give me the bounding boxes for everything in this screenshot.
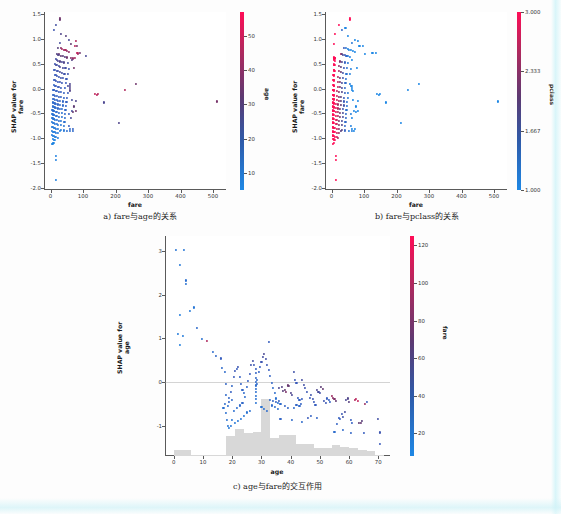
- scatter-point: [342, 116, 344, 118]
- scatter-point: [63, 92, 65, 94]
- scatter-point: [346, 67, 348, 69]
- cbar-a-tick: [244, 173, 247, 174]
- scatter-point: [291, 419, 293, 421]
- scatter-point: [61, 67, 63, 69]
- cbar-c-tick: [414, 321, 417, 322]
- scatter-point: [278, 387, 280, 389]
- scatter-point: [336, 423, 338, 425]
- scatter-point: [219, 357, 221, 359]
- scatter-point: [68, 113, 70, 115]
- scatter-point: [59, 42, 61, 44]
- scatter-point: [193, 306, 195, 308]
- cbar-a-tick-label: 20: [248, 136, 255, 142]
- scatter-point: [59, 100, 61, 102]
- plot-a-y-tick-label: 1.0: [32, 36, 41, 42]
- cbar-a-tick: [244, 139, 247, 140]
- scatter-point: [53, 29, 55, 31]
- plot-a-y-tick: [41, 89, 44, 90]
- panel-c-histogram-bar: [200, 455, 209, 457]
- scatter-point: [274, 406, 276, 408]
- panel-c-histogram-bar: [270, 438, 279, 456]
- scatter-point: [212, 351, 214, 353]
- scatter-point: [371, 51, 373, 53]
- scatter-point: [97, 93, 99, 95]
- panel-c-x-axis-label: age: [271, 468, 284, 475]
- cbar-c-tick-label: 40: [418, 393, 425, 399]
- scatter-point: [346, 105, 348, 107]
- cbar-a-tick: [244, 104, 247, 105]
- scatter-point: [310, 415, 312, 417]
- plot-b-y-tick: [322, 89, 325, 90]
- scatter-point: [345, 399, 347, 401]
- cbar-b-tick-label: 2.333: [525, 68, 540, 74]
- scatter-point: [293, 371, 295, 373]
- panel-b-caption: b) fare与pclass的关系: [281, 210, 553, 221]
- scatter-point: [357, 400, 359, 402]
- scatter-point: [350, 432, 352, 434]
- scatter-point: [238, 404, 240, 406]
- scatter-point: [347, 97, 349, 99]
- plot-c-x-tick-label: 40: [287, 459, 294, 465]
- plot-c-y-tick: [162, 426, 165, 427]
- scatter-point: [268, 369, 270, 371]
- plot-c-x-tick-label: 70: [375, 459, 382, 465]
- plot-b-y-tick-label: -1.5: [311, 160, 322, 166]
- panel-b-colorbar-title: pclass: [549, 84, 556, 105]
- scatter-point: [55, 179, 57, 181]
- scatter-point: [342, 77, 344, 79]
- panel-c-histogram-bar: [174, 450, 183, 456]
- scatter-point: [59, 18, 61, 20]
- scatter-point: [225, 394, 227, 396]
- scatter-point: [68, 51, 70, 53]
- scatter-point: [103, 101, 105, 103]
- scatter-point: [241, 402, 243, 404]
- scatter-point: [342, 108, 344, 110]
- scatter-point: [234, 370, 236, 372]
- cbar-a-tick-label: 50: [248, 33, 255, 39]
- panel-c-histogram-bar: [296, 444, 305, 456]
- scatter-point: [75, 45, 77, 47]
- scatter-point: [65, 78, 67, 80]
- scatter-point: [55, 24, 57, 26]
- scatter-point: [228, 401, 230, 403]
- cbar-a-tick-label: 10: [248, 170, 255, 176]
- scatter-point: [334, 33, 336, 35]
- scatter-point: [309, 397, 311, 399]
- scatter-point: [375, 52, 377, 54]
- plot-a-x-tick-label: 100: [78, 193, 88, 199]
- scatter-point: [74, 40, 76, 42]
- cbar-b-tick-label: 1.000: [525, 187, 540, 193]
- scatter-point: [497, 100, 499, 102]
- scatter-point: [185, 279, 187, 281]
- scatter-point: [255, 391, 257, 393]
- plot-a-x-tick-label: 400: [175, 193, 185, 199]
- scatter-point: [333, 90, 335, 92]
- scatter-point: [272, 400, 274, 402]
- plot-a-y-tick-label: 1.5: [32, 11, 41, 17]
- scatter-point: [275, 397, 277, 399]
- panel-c-histogram-bar: [305, 444, 314, 456]
- scatter-point: [63, 61, 65, 63]
- scatter-point: [61, 116, 63, 118]
- scatter-point: [345, 109, 347, 111]
- scatter-point: [303, 384, 305, 386]
- panel-b-y-axis-line: [325, 12, 326, 190]
- scatter-point: [348, 401, 350, 403]
- scatter-point: [257, 371, 259, 373]
- scatter-point: [338, 132, 340, 134]
- scatter-point: [55, 159, 57, 161]
- scatter-point: [339, 108, 341, 110]
- plot-c-y-tick-label: 1: [159, 335, 162, 341]
- scatter-point: [341, 87, 343, 89]
- plot-b-x-tick-label: 0: [330, 193, 333, 199]
- plot-b-y-tick: [322, 39, 325, 40]
- scatter-point: [67, 92, 69, 94]
- scatter-point: [256, 383, 258, 385]
- scatter-point: [325, 402, 327, 404]
- panel-c-histogram-bar: [323, 448, 332, 456]
- cbar-c-tick: [414, 396, 417, 397]
- plot-a-x-tick-label: 300: [143, 193, 153, 199]
- scatter-point: [322, 388, 324, 390]
- panel-c-histogram-bar: [314, 448, 323, 456]
- scatter-point: [344, 92, 346, 94]
